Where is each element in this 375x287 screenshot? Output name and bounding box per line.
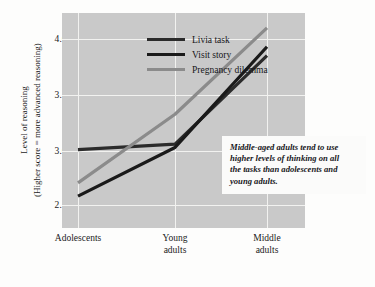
y-tick-label-4: 4.0: [27, 34, 67, 44]
x-axis-label-adolescents-line1: Adolescents: [23, 233, 133, 245]
legend-label-visit-story: Visit story: [192, 50, 231, 60]
x-axis-label-adolescents: Adolescents: [23, 233, 133, 245]
plot-panel: Livia task Visit story Pregnancy dilemma: [62, 13, 305, 228]
y-axis-title: Level of reasoning (Higher score = more …: [18, 20, 44, 220]
legend-label-pregnancy-dilemma: Pregnancy dilemma: [192, 65, 268, 75]
y-tick-label-3: 3.5: [27, 90, 67, 100]
y-tick-label-2: 3.0: [27, 146, 67, 156]
annotation-line2: higher levels of thinking on all: [230, 153, 359, 164]
legend-item-pregnancy-dilemma: Pregnancy dilemma: [147, 62, 268, 77]
x-axis-label-middle-adults-line1: Middle: [212, 233, 322, 245]
legend-item-livia-task: Livia task: [147, 32, 268, 47]
annotation-line3: the tasks than adolescents and: [230, 164, 359, 175]
legend-swatch-pregnancy-dilemma: [147, 68, 185, 72]
chart-figure: Level of reasoning (Higher score = more …: [0, 0, 375, 287]
y-axis-title-line2: (Higher score = more advanced reasoning): [31, 20, 44, 220]
y-tick-label-1: 2.5: [27, 200, 67, 210]
chart-legend: Livia task Visit story Pregnancy dilemma: [147, 32, 268, 77]
annotation-line4: young adults.: [230, 176, 359, 187]
y-axis-title-line1: Level of reasoning: [18, 20, 31, 220]
annotation-callout: Middle-aged adults tend to use higher le…: [222, 136, 366, 194]
x-axis-label-middle-adults: Middle adults: [212, 233, 322, 256]
legend-swatch-livia-task: [147, 38, 185, 42]
annotation-line1: Middle-aged adults tend to use: [230, 142, 359, 153]
legend-swatch-visit-story: [147, 53, 185, 57]
x-axis-label-middle-adults-line2: adults: [212, 245, 322, 257]
legend-item-visit-story: Visit story: [147, 47, 268, 62]
legend-label-livia-task: Livia task: [192, 35, 230, 45]
